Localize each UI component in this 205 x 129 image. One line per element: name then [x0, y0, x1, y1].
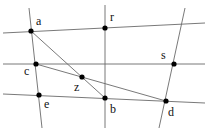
point-s — [171, 61, 176, 66]
label-d: d — [168, 105, 174, 119]
label-e: e — [44, 97, 49, 111]
segment-cd — [36, 64, 166, 101]
label-r: r — [110, 10, 114, 24]
point-d — [163, 98, 168, 103]
segment-ab — [31, 31, 105, 98]
point-r — [102, 25, 107, 30]
label-z: z — [74, 80, 79, 94]
labels-group: arcszebd — [24, 10, 174, 119]
points-group — [28, 25, 176, 103]
label-b: b — [110, 102, 116, 116]
point-c — [33, 61, 38, 66]
label-c: c — [24, 64, 29, 78]
label-s: s — [161, 48, 166, 62]
point-z — [79, 74, 84, 79]
point-b — [102, 95, 107, 100]
point-a — [28, 28, 33, 33]
incidence-diagram: arcszebd — [0, 0, 205, 129]
label-a: a — [36, 14, 42, 28]
point-e — [36, 92, 41, 97]
